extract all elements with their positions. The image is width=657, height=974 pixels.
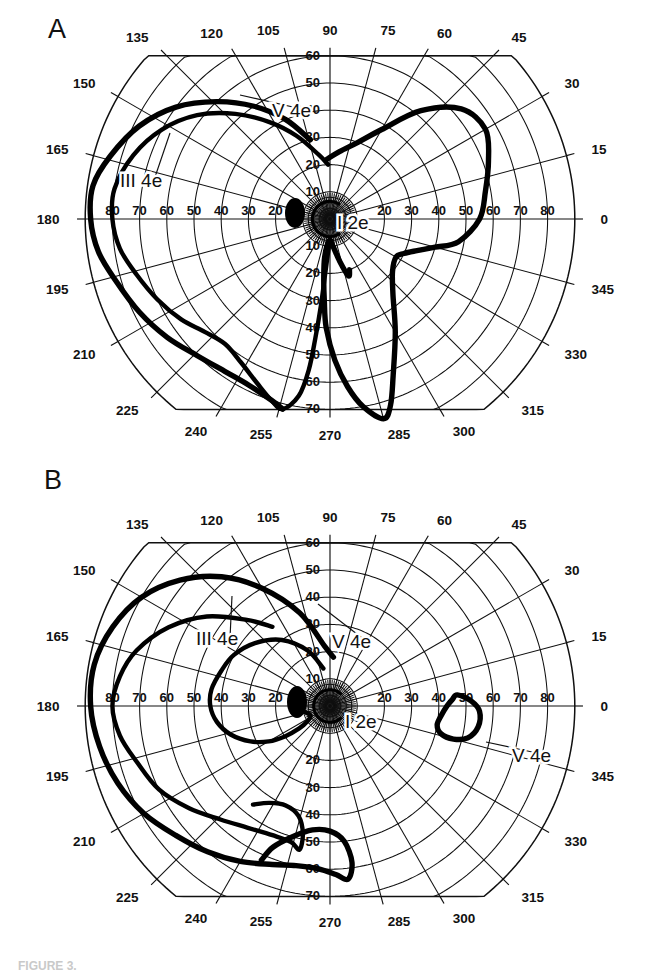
angle-labels: 0153045607590105120135150165180195210225… [37, 23, 615, 443]
radial-tick-label: 40 [306, 589, 320, 604]
angle-label-180: 180 [37, 699, 60, 714]
angle-tick-345 [566, 769, 574, 771]
angle-label-45: 45 [512, 30, 528, 45]
grid-meridian-15 [330, 643, 566, 706]
angle-tick-225 [151, 392, 157, 398]
angle-label-105: 105 [257, 510, 280, 525]
angle-tick-60 [424, 536, 428, 543]
angle-label-120: 120 [200, 26, 223, 41]
angle-label-60: 60 [437, 26, 452, 41]
radial-tick-label: 20 [268, 203, 282, 218]
radial-tick-label: 30 [404, 690, 418, 705]
angle-tick-120 [232, 49, 236, 56]
angle-tick-210 [111, 341, 118, 345]
angle-tick-45 [493, 537, 499, 543]
radial-tick-label: 20 [306, 157, 320, 172]
angle-tick-45 [493, 50, 499, 56]
angle-tick-285 [381, 896, 383, 904]
angle-label-150: 150 [73, 76, 96, 91]
radial-tick-label: 60 [306, 535, 320, 550]
radial-tick-label: 20 [377, 203, 391, 218]
angle-label-0: 0 [601, 699, 609, 714]
radial-tick-label: 20 [306, 752, 320, 767]
angle-tick-255 [277, 896, 279, 904]
angle-labels: 0153045607590105120135150165180195210225… [37, 510, 615, 930]
isopter-label-text: I 2e [337, 212, 369, 233]
panel-letter-b: B [44, 467, 62, 494]
radial-tick-label: 40 [432, 203, 446, 218]
angle-tick-75 [374, 48, 376, 56]
angle-tick-315 [503, 392, 509, 398]
radial-tick-label: 60 [486, 203, 500, 218]
radial-tick-label: 20 [268, 690, 282, 705]
panel-a-chart: 2030405060708020304050607080102030405060… [0, 0, 657, 455]
angle-tick-105 [284, 535, 286, 543]
blind-spot [285, 198, 305, 228]
grid-meridian-285 [330, 706, 381, 896]
angle-tick-300 [440, 896, 444, 903]
angle-tick-225 [151, 879, 157, 885]
angle-tick-255 [277, 409, 279, 417]
angle-label-330: 330 [564, 834, 587, 849]
angle-label-285: 285 [388, 427, 411, 442]
angle-tick-15 [566, 641, 574, 643]
angle-label-210: 210 [73, 347, 96, 362]
angle-tick-330 [542, 341, 549, 345]
goldmann-perimetry-figure: A 20304050607080203040506070801020304050… [0, 0, 657, 974]
angle-label-60: 60 [437, 513, 452, 528]
angle-tick-150 [111, 580, 118, 584]
figure-caption: FIGURE 3. [0, 958, 657, 974]
angle-tick-345 [566, 282, 574, 284]
radial-tick-label: 40 [214, 203, 228, 218]
radial-tick-label: 50 [187, 690, 201, 705]
blind-spot [287, 686, 307, 718]
angle-label-90: 90 [322, 510, 337, 525]
angle-label-210: 210 [73, 834, 96, 849]
angle-label-75: 75 [380, 510, 396, 525]
grid-meridian-225 [157, 706, 330, 879]
grid-meridian-45 [330, 543, 493, 706]
radial-tick-label: 20 [377, 690, 391, 705]
radial-tick-label: 40 [432, 690, 446, 705]
angle-label-300: 300 [453, 911, 476, 926]
radial-tick-label: 30 [241, 690, 255, 705]
angle-tick-15 [566, 154, 574, 156]
isopter-label-text: V 4e [272, 100, 311, 121]
angle-tick-210 [111, 828, 118, 832]
angle-label-240: 240 [185, 424, 208, 439]
radial-tick-label: 60 [486, 690, 500, 705]
angle-label-255: 255 [250, 914, 273, 929]
angle-tick-135 [161, 50, 167, 56]
angle-label-30: 30 [564, 76, 579, 91]
isopter-label-text: III 4e [120, 170, 162, 191]
grid-meridian-45 [330, 56, 493, 219]
angle-tick-300 [440, 409, 444, 416]
angle-label-195: 195 [46, 282, 69, 297]
angle-label-330: 330 [564, 347, 587, 362]
radial-tick-label: 10 [306, 671, 320, 686]
radial-tick-label: 70 [306, 888, 320, 903]
angle-label-15: 15 [591, 142, 607, 157]
angle-tick-150 [111, 93, 118, 97]
angle-label-135: 135 [126, 30, 149, 45]
angle-label-75: 75 [380, 23, 396, 38]
angle-label-150: 150 [73, 563, 96, 578]
angle-label-15: 15 [591, 629, 607, 644]
radial-tick-label: 30 [306, 293, 320, 308]
angle-label-300: 300 [453, 424, 476, 439]
angle-tick-195 [86, 282, 94, 284]
radial-tick-label: 50 [306, 834, 320, 849]
angle-tick-135 [161, 537, 167, 543]
angle-tick-30 [542, 580, 549, 584]
isopter-label-text: V 4e [332, 631, 371, 652]
panel-letter-a: A [48, 16, 66, 43]
grid-meridian-195 [94, 219, 330, 282]
angle-label-225: 225 [116, 403, 139, 418]
radial-tick-label: 60 [160, 203, 174, 218]
radial-tick-label: 30 [404, 203, 418, 218]
angle-label-195: 195 [46, 769, 69, 784]
radial-tick-label: 10 [306, 184, 320, 199]
isopter-label-text: III 4e [196, 628, 238, 649]
angle-label-270: 270 [319, 915, 342, 930]
radial-tick-label: 10 [306, 238, 320, 253]
